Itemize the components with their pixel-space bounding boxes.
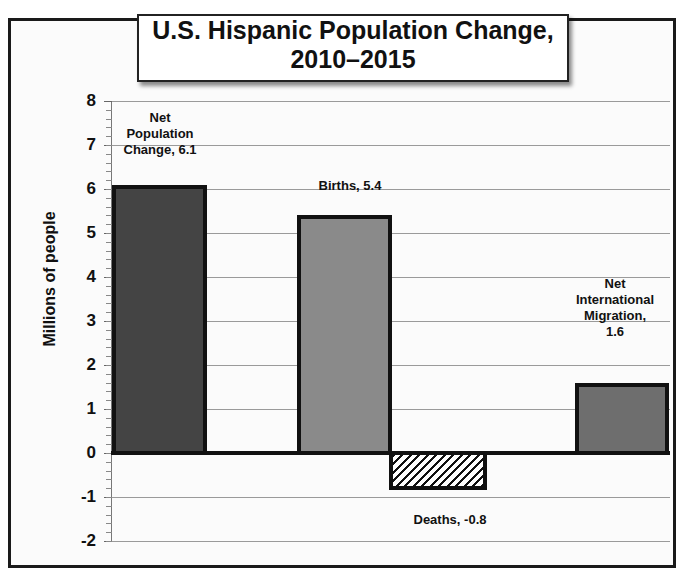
minor-tick <box>106 180 112 181</box>
y-axis-label: Millions of people <box>41 189 59 369</box>
minor-tick <box>106 471 112 472</box>
minor-tick <box>106 541 112 542</box>
minor-tick <box>106 163 112 164</box>
bar-net-international-migration <box>575 383 669 455</box>
major-tick <box>104 101 112 102</box>
gridline <box>111 541 670 542</box>
y-tick-label: 3 <box>70 311 96 331</box>
y-tick-label: 8 <box>70 91 96 111</box>
chart-title: U.S. Hispanic Population Change, 2010–20… <box>137 14 569 82</box>
minor-tick <box>106 506 112 507</box>
minor-tick <box>106 171 112 172</box>
zero-baseline <box>111 451 670 455</box>
minor-tick <box>106 488 112 489</box>
bar-deaths <box>389 451 487 490</box>
minor-tick <box>106 532 112 533</box>
y-tick-label: 6 <box>70 179 96 199</box>
minor-tick <box>106 497 112 498</box>
chart-title-line-1: U.S. Hispanic Population Change, <box>139 16 567 45</box>
data-label: Deaths, -0.8 <box>380 512 520 528</box>
data-label: Births, 5.4 <box>290 178 410 194</box>
y-tick-label: 5 <box>70 223 96 243</box>
chart-title-line-2: 2010–2015 <box>139 45 567 74</box>
data-label: NetInternationalMigration,1.6 <box>560 276 670 340</box>
gridline <box>111 101 670 102</box>
bar-net-population-change <box>112 185 207 455</box>
y-tick-label: 2 <box>70 355 96 375</box>
gridline <box>111 497 670 498</box>
minor-tick <box>106 515 112 516</box>
y-tick-label: 1 <box>70 399 96 419</box>
minor-tick <box>106 523 112 524</box>
bar-births <box>297 215 392 455</box>
y-tick-label: 0 <box>70 443 96 463</box>
minor-tick <box>106 479 112 480</box>
y-tick-label: 4 <box>70 267 96 287</box>
y-tick-label: -1 <box>70 487 96 507</box>
data-label: NetPopulationChange, 6.1 <box>100 110 220 158</box>
y-tick-label: -2 <box>70 531 96 551</box>
minor-tick <box>106 462 112 463</box>
y-tick-label: 7 <box>70 135 96 155</box>
